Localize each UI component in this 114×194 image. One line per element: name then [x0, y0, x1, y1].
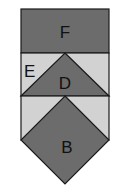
label-e: E [24, 62, 35, 81]
label-f: F [60, 23, 70, 42]
label-b: B [61, 138, 72, 157]
shape-diagram: F E D B [0, 0, 114, 194]
label-d: D [59, 74, 71, 93]
